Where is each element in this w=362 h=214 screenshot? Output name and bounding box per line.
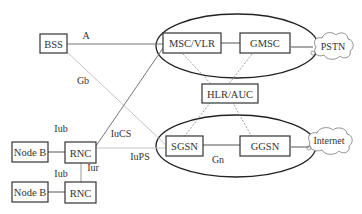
node-hlr-auc: HLR/AUC: [202, 84, 258, 103]
edge-msc-hlr: [183, 54, 212, 85]
edge-gn-label: Gn: [212, 154, 224, 165]
node-sgsn-label: SGSN: [171, 141, 198, 152]
edge-iub-2-label: Iub: [54, 168, 67, 179]
node-rnc-1: RNC: [65, 142, 96, 163]
edge-ggsn-hlr: [233, 103, 252, 137]
node-rnc-2-label: RNC: [70, 188, 92, 199]
edge-a-label: A: [82, 30, 90, 41]
edge-iub-1-label: Iub: [54, 123, 67, 134]
pstn-cloud-icon: PSTN: [311, 33, 353, 60]
node-rnc-2: RNC: [65, 182, 96, 203]
internet-label: Internet: [313, 135, 344, 146]
internet-cloud-icon: Internet: [307, 128, 352, 155]
node-gmsc: GMSC: [240, 33, 290, 53]
network-architecture-diagram: BSS MSC/VLR GMSC HLR/AUC SGSN GGSN Node …: [0, 0, 362, 214]
edge-gb-label: Gb: [77, 75, 89, 86]
edge-sgsn-hlr: [184, 103, 210, 137]
node-msc-vlr: MSC/VLR: [163, 33, 221, 53]
node-bss: BSS: [40, 34, 67, 53]
node-bss-label: BSS: [44, 39, 63, 50]
node-msc-vlr-label: MSC/VLR: [169, 38, 215, 49]
edge-iups-label: IuPS: [130, 151, 149, 162]
edge-iucs-label: IuCS: [111, 128, 132, 139]
edge-iur-label: Iur: [87, 162, 99, 173]
pstn-label: PSTN: [321, 41, 345, 52]
node-nodeb-1-label: Node B: [14, 147, 46, 158]
edge-gmsc-hlr: [228, 54, 252, 85]
node-nodeb-2-label: Node B: [14, 187, 46, 198]
node-sgsn: SGSN: [166, 136, 203, 156]
node-gmsc-label: GMSC: [250, 38, 280, 49]
node-nodeb-2: Node B: [12, 182, 48, 202]
node-ggsn: GGSN: [240, 136, 290, 156]
node-ggsn-label: GGSN: [251, 141, 280, 152]
node-hlr-auc-label: HLR/AUC: [207, 89, 253, 100]
node-nodeb-1: Node B: [12, 142, 48, 162]
node-rnc-1-label: RNC: [70, 148, 92, 159]
